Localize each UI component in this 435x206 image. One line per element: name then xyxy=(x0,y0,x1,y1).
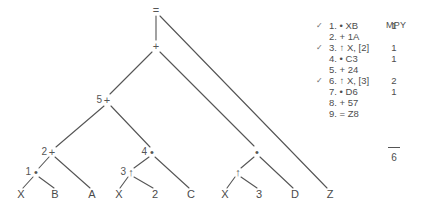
instruction-row: 9. = Z8 xyxy=(316,108,435,119)
instruction-row: 8. + 57 xyxy=(316,97,435,108)
tree-edge xyxy=(56,106,104,147)
instruction-listing: MPY ✓1. • XB12. + 1A✓3. ↑ X, [2]14. • C3… xyxy=(316,20,435,119)
tree-leaf-l_A: A xyxy=(88,189,95,199)
instruction-row: ✓6. ↑ X, [3]2 xyxy=(316,75,435,86)
figure-canvas: =++5+2•1•4↑3•↑XBAX2CX3DZ MPY ✓1. • XB12.… xyxy=(0,0,435,206)
tree-edge xyxy=(160,16,327,188)
check-icon xyxy=(316,65,324,74)
tree-leaf-l_C: C xyxy=(187,189,195,199)
tree-edge xyxy=(134,177,153,188)
tree-edge xyxy=(39,157,49,168)
instruction-row: 4. • C31 xyxy=(316,53,435,64)
tree-leaf-l_Z: Z xyxy=(327,189,334,199)
tree-node-number-1: 1 xyxy=(25,167,31,177)
instruction-row: ✓1. • XB1 xyxy=(316,20,435,31)
tree-node-4: • xyxy=(150,147,154,157)
instruction-label: 8. + 57 xyxy=(329,97,358,108)
tree-node-5: + xyxy=(104,95,110,105)
instruction-label: 9. = Z8 xyxy=(329,108,359,119)
instruction-label: 7. • D6 xyxy=(329,86,358,97)
instruction-mpy-count: 2 xyxy=(388,75,400,86)
tree-leaf-l_B: B xyxy=(51,189,58,199)
instruction-label: 4. • C3 xyxy=(329,53,358,64)
instruction-mpy-count: 1 xyxy=(388,53,400,64)
instruction-mpy-count: 1 xyxy=(388,20,400,31)
tree-node-nru: ↑ xyxy=(235,167,241,177)
tree-edge xyxy=(23,177,33,188)
instruction-row: ✓3. ↑ X, [2]1 xyxy=(316,42,435,53)
tree-node-1: • xyxy=(34,167,38,177)
instruction-label: 1. • XB xyxy=(329,20,358,31)
tree-edge xyxy=(260,157,293,188)
tree-leaf-l_X2: X xyxy=(115,189,122,199)
tree-edge xyxy=(241,177,257,188)
instruction-row: 2. + 1A xyxy=(316,31,435,42)
tree-node-number-5: 5 xyxy=(96,95,102,105)
check-icon xyxy=(316,32,324,41)
tree-edge xyxy=(39,177,54,188)
check-icon xyxy=(316,98,324,107)
check-icon: ✓ xyxy=(316,21,324,30)
tree-node-2: + xyxy=(49,147,55,157)
check-icon: ✓ xyxy=(316,76,324,85)
total-separator-rule xyxy=(388,147,400,148)
tree-node-number-4: 4 xyxy=(141,147,147,157)
tree-node-3: ↑ xyxy=(128,167,134,177)
instruction-label: 3. ↑ X, [2] xyxy=(329,42,369,53)
tree-edge xyxy=(134,157,149,168)
instruction-label: 5. + 24 xyxy=(329,64,358,75)
tree-edge xyxy=(241,157,254,168)
tree-edge xyxy=(120,177,128,188)
tree-edge xyxy=(155,157,189,188)
tree-edge xyxy=(55,157,90,188)
tree-leaf-l_X3: X xyxy=(221,189,228,199)
tree-edge xyxy=(110,52,152,94)
instruction-row: 5. + 24 xyxy=(316,64,435,75)
tree-node-root: = xyxy=(153,5,159,15)
check-icon: ✓ xyxy=(316,43,324,52)
instruction-rows: ✓1. • XB12. + 1A✓3. ↑ X, [2]14. • C315. … xyxy=(316,20,435,119)
instruction-row: 7. • D61 xyxy=(316,86,435,97)
tree-edge xyxy=(111,106,150,147)
tree-node-number-2: 2 xyxy=(41,147,47,157)
check-icon xyxy=(316,54,324,63)
tree-leaf-l_2: 2 xyxy=(152,189,158,199)
check-icon xyxy=(316,87,324,96)
mpy-total: 6 xyxy=(388,152,400,163)
tree-edge xyxy=(227,177,235,188)
instruction-label: 6. ↑ X, [3] xyxy=(329,75,369,86)
tree-node-number-3: 3 xyxy=(120,167,126,177)
tree-leaf-l_D: D xyxy=(291,189,299,199)
tree-node-nr: • xyxy=(255,147,259,157)
tree-node-n_plus: + xyxy=(153,41,159,51)
check-icon xyxy=(316,109,324,118)
tree-leaf-l_X1: X xyxy=(17,189,24,199)
instruction-mpy-count: 1 xyxy=(388,42,400,53)
instruction-mpy-count: 1 xyxy=(388,86,400,97)
instruction-label: 2. + 1A xyxy=(329,31,359,42)
tree-leaf-l_3: 3 xyxy=(256,189,262,199)
